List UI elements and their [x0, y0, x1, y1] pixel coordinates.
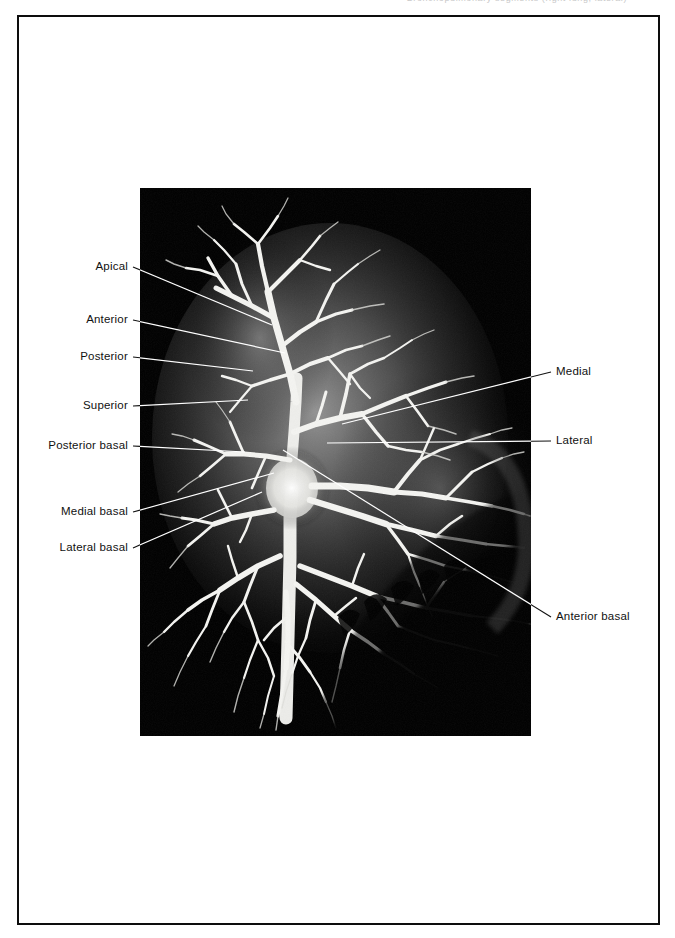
label-anterior-basal-text: Anterior basal	[556, 610, 630, 622]
label-apical-text: Apical	[95, 260, 128, 272]
label-superior-text: Superior	[83, 399, 128, 411]
bronchogram-artwork	[140, 188, 531, 736]
label-posterior: Posterior	[0, 351, 128, 363]
label-superior: Superior	[0, 400, 128, 412]
figure-page: Bronchopulmonary segments (right lung, l…	[0, 0, 675, 938]
label-apical: Apical	[0, 261, 128, 273]
label-lateral-basal-text: Lateral basal	[60, 541, 128, 553]
label-posterior-basal-text: Posterior basal	[48, 439, 128, 451]
bronchogram-radiograph	[140, 188, 531, 736]
label-medial-text: Medial	[556, 365, 591, 377]
label-posterior-basal: Posterior basal	[0, 440, 128, 452]
label-posterior-text: Posterior	[80, 350, 128, 362]
label-medial-basal-text: Medial basal	[61, 505, 128, 517]
running-head: Bronchopulmonary segments (right lung, l…	[0, 0, 675, 5]
label-medial: Medial	[556, 366, 591, 378]
label-lateral-text: Lateral	[556, 434, 593, 446]
label-anterior-text: Anterior	[86, 313, 128, 325]
label-medial-basal: Medial basal	[0, 506, 128, 518]
label-lateral-basal: Lateral basal	[0, 542, 128, 554]
label-anterior-basal: Anterior basal	[556, 611, 630, 623]
label-anterior: Anterior	[0, 314, 128, 326]
label-lateral: Lateral	[556, 435, 593, 447]
